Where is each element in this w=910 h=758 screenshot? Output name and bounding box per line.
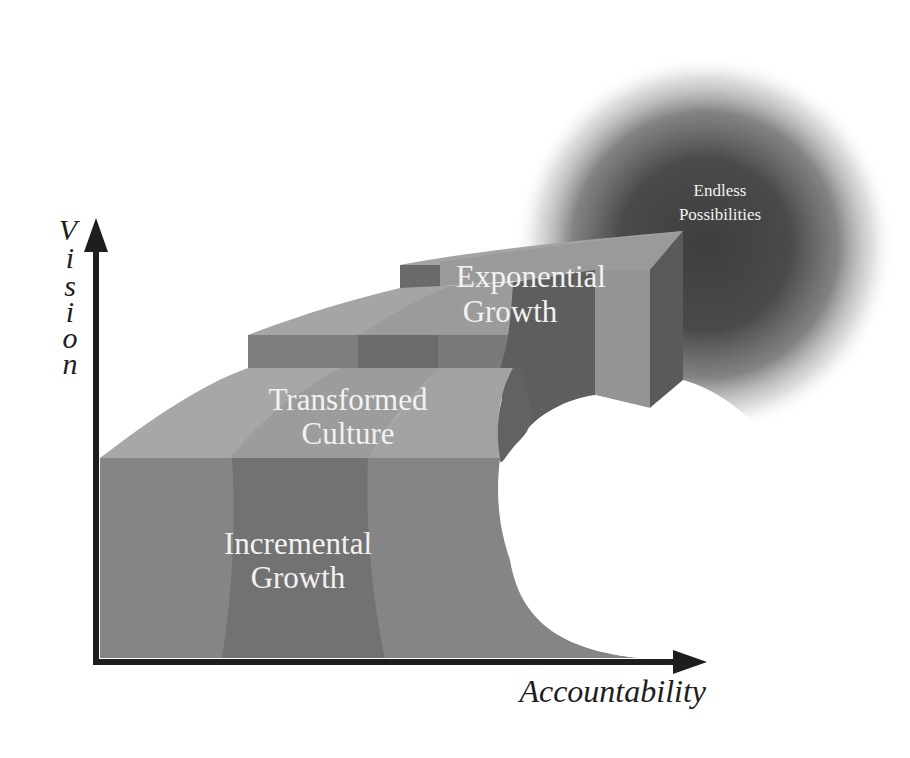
curve-void: [508, 380, 790, 658]
stage-label-line1: Transformed: [268, 382, 428, 417]
stage-label-line2: Growth: [463, 294, 558, 329]
stage-label-line1: Incremental: [224, 526, 372, 561]
stage-label-line2: Growth: [251, 560, 346, 595]
vision-accountability-diagram: V i s i o n Accountability Exponential G…: [0, 0, 910, 758]
stage-label-line2: Culture: [302, 416, 395, 451]
goal-label-line1: Endless: [694, 181, 747, 200]
y-axis-label: V i s i o n: [59, 213, 81, 380]
y-axis-arrow-icon: [84, 218, 108, 252]
y-label-letter: n: [63, 347, 78, 380]
goal-label-line2: Possibilities: [679, 205, 761, 224]
stage-label-line1: Exponential: [456, 259, 606, 294]
x-axis-label: Accountability: [517, 673, 706, 709]
